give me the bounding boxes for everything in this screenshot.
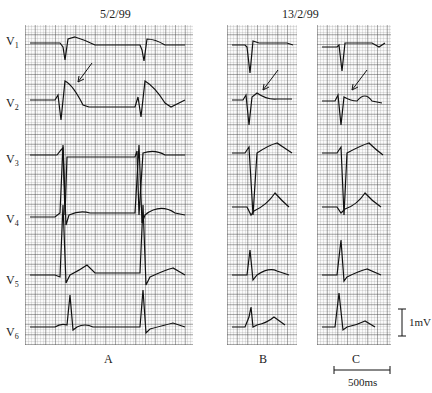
- st-arrows: [0, 0, 432, 393]
- arrow-icon: [78, 63, 92, 82]
- panel-label-a: A: [104, 352, 113, 367]
- time-scale-label: 500ms: [348, 376, 377, 388]
- voltage-scale-label: 1mV: [409, 316, 431, 328]
- time-scale-bar: [334, 366, 390, 374]
- arrow-icon: [352, 70, 367, 90]
- panel-label-c: C: [352, 352, 360, 367]
- voltage-scale-bar: [398, 309, 406, 336]
- panel-label-b: B: [259, 352, 267, 367]
- arrow-icon: [263, 70, 278, 90]
